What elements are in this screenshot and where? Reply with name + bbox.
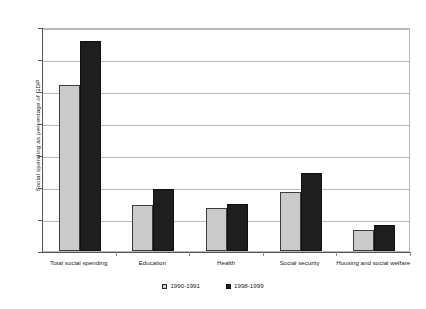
bar-group — [353, 29, 395, 251]
x-axis-category-label: Housing and social welfare — [327, 259, 419, 268]
plot-area — [42, 28, 410, 252]
legend-entry[interactable]: 1990-1991 — [162, 283, 200, 289]
x-axis-tick-mark — [336, 252, 337, 256]
bar-group — [59, 29, 101, 251]
legend-swatch-icon — [162, 284, 167, 289]
x-axis-tick-mark — [189, 252, 190, 256]
y-axis-title: Social spending as percentage of GDP — [34, 36, 41, 236]
bar-chart: Social spending as percentage of GDP 024… — [0, 0, 426, 309]
legend-entry[interactable]: 1998-1999 — [226, 283, 264, 289]
bar — [374, 225, 395, 251]
bar — [280, 192, 301, 251]
x-axis-tick-mark — [410, 252, 411, 256]
x-axis-line — [42, 252, 411, 253]
legend-swatch-icon — [226, 284, 231, 289]
bar — [153, 189, 174, 251]
bar-group — [132, 29, 174, 251]
chart-legend: 1990-19911998-1999 — [0, 283, 426, 289]
bar — [206, 208, 227, 251]
bar-group — [280, 29, 322, 251]
bar — [80, 41, 101, 251]
bar — [353, 230, 374, 251]
bar-group — [206, 29, 248, 251]
x-axis-tick-mark — [263, 252, 264, 256]
legend-label: 1990-1991 — [170, 283, 200, 289]
bar — [59, 85, 80, 251]
bar — [301, 173, 322, 251]
bar — [227, 204, 248, 251]
bar — [132, 205, 153, 251]
y-axis-line — [42, 28, 43, 253]
legend-label: 1998-1999 — [234, 283, 264, 289]
x-axis-tick-mark — [116, 252, 117, 256]
